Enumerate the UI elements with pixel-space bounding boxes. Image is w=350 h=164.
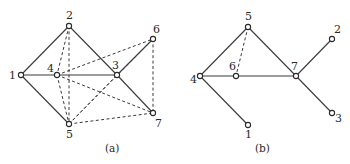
node-5-icon — [245, 24, 250, 29]
solid-edge-1-5 — [21, 75, 69, 124]
node-3-icon — [329, 110, 334, 115]
node-6-icon — [233, 73, 238, 78]
figure-b-caption: (b) — [255, 142, 270, 154]
node-label-2: 2 — [66, 9, 73, 22]
node-2-icon — [66, 23, 71, 28]
node-7-icon — [150, 110, 155, 115]
node-label-1: 1 — [9, 69, 16, 82]
node-label-2: 2 — [334, 23, 341, 36]
node-label-3: 3 — [335, 112, 342, 125]
solid-edge-4-5 — [200, 27, 248, 76]
node-4-icon — [197, 73, 202, 78]
solid-edge-4-1 — [200, 76, 248, 125]
figure-a-caption: (a) — [105, 142, 119, 154]
node-3-icon — [114, 72, 119, 77]
node-label-7: 7 — [291, 60, 298, 73]
dashed-edge-5-6 — [236, 27, 248, 76]
dashed-edge-4-7 — [57, 75, 153, 113]
node-label-3: 3 — [112, 59, 119, 72]
dashed-edges — [236, 27, 248, 76]
node-label-1: 1 — [245, 128, 252, 141]
node-label-7: 7 — [155, 117, 162, 130]
solid-edge-1-2 — [21, 26, 69, 75]
dashed-edge-2-4 — [57, 26, 69, 75]
node-1-icon — [18, 72, 23, 77]
dashed-edge-4-5 — [57, 75, 69, 124]
node-label-5: 5 — [66, 128, 73, 141]
node-label-5: 5 — [245, 10, 252, 23]
solid-edge-7-3 — [296, 76, 332, 113]
solid-edge-7-2 — [296, 39, 332, 76]
node-7-icon — [293, 73, 298, 78]
node-4-icon — [54, 72, 59, 77]
node-1-icon — [245, 122, 250, 127]
node-2-icon — [329, 36, 334, 41]
solid-edge-3-7 — [117, 75, 153, 113]
node-label-4: 4 — [190, 73, 197, 86]
node-6-icon — [150, 36, 155, 41]
node-label-4: 4 — [47, 62, 54, 75]
node-label-6: 6 — [229, 60, 236, 73]
node-5-icon — [66, 121, 71, 126]
dashed-edge-5-7 — [69, 113, 153, 124]
node-label-6: 6 — [153, 23, 160, 36]
solid-edges — [200, 27, 332, 125]
figure-a-graph: 1234567 (a) — [9, 9, 162, 154]
solid-edge-5-7 — [248, 27, 296, 76]
solid-edge-2-3 — [69, 26, 117, 75]
dashed-edge-4-6 — [57, 39, 153, 75]
solid-edges — [21, 26, 153, 124]
graph-diagram: 1234567 (a) 1234567 (b) — [0, 0, 350, 164]
figure-b-graph: 1234567 (b) — [190, 10, 342, 154]
